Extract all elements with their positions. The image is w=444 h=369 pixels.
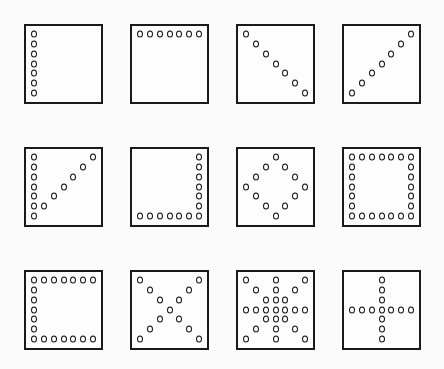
dot-marker [196,277,202,284]
dot-marker [292,306,298,313]
dot-marker [196,31,202,38]
dot-marker [398,40,404,47]
dot-marker [369,154,375,161]
dot-marker [137,31,143,38]
dot-marker [349,90,355,97]
dot-marker [147,213,153,220]
dot-marker [90,336,96,343]
dot-marker [186,31,192,38]
dot-marker [273,326,279,333]
dot-marker [369,70,375,77]
dot-marker [253,193,259,200]
dot-marker [31,90,37,97]
dot-marker [379,213,385,220]
dot-marker [31,70,37,77]
dot-marker [167,306,173,313]
dot-marker [157,213,163,220]
dot-marker [388,50,394,57]
dot-marker [273,60,279,67]
dot-marker [359,154,365,161]
dot-marker [243,336,249,343]
dot-marker [398,306,404,313]
dot-marker [51,336,57,343]
dot-marker [157,31,163,38]
dot-marker [379,154,385,161]
dot-marker [41,203,47,210]
dot-marker [349,183,355,190]
dot-marker [196,213,202,220]
dot-marker [292,326,298,333]
dot-marker [369,306,375,313]
dot-marker [31,316,37,323]
dot-marker [31,336,37,343]
dot-marker [31,183,37,190]
dot-marker [408,306,414,313]
dot-marker [282,316,288,323]
dot-marker [243,277,249,284]
dot-marker [51,277,57,284]
dot-marker [31,306,37,313]
dot-marker [349,213,355,220]
dot-marker [196,193,202,200]
dot-marker [176,296,182,303]
dot-marker [31,326,37,333]
dot-marker [263,203,269,210]
dot-marker [253,286,259,293]
dot-marker [90,154,96,161]
dot-marker [31,163,37,170]
dot-marker [273,296,279,303]
dot-marker [90,277,96,284]
dot-marker [408,203,414,210]
dot-marker [292,193,298,200]
dot-marker [31,193,37,200]
dot-marker [70,336,76,343]
dot-marker [196,163,202,170]
dot-marker [282,70,288,77]
dot-marker [408,154,414,161]
dot-marker [388,213,394,220]
dot-marker [167,31,173,38]
dot-marker [157,296,163,303]
dot-marker [273,336,279,343]
dot-marker [388,154,394,161]
dot-marker [31,31,37,38]
dot-marker [408,183,414,190]
dot-marker [31,277,37,284]
dot-marker [349,193,355,200]
dot-marker [61,277,67,284]
dot-marker [379,326,385,333]
dot-marker [282,296,288,303]
dot-marker [349,203,355,210]
dot-marker [302,336,308,343]
dot-marker [379,316,385,323]
panel-left-column [24,24,103,104]
dot-marker [282,306,288,313]
dot-marker [196,154,202,161]
dot-marker [147,31,153,38]
dot-marker [31,286,37,293]
dot-marker [31,213,37,220]
dot-marker [302,277,308,284]
dot-marker [31,173,37,180]
dot-marker [31,50,37,57]
dot-marker [379,306,385,313]
dot-marker [292,173,298,180]
dot-marker [186,286,192,293]
panel-c-shape [24,270,103,350]
dot-marker [31,203,37,210]
dot-marker [196,203,202,210]
panel-star [236,270,315,350]
dot-marker [263,163,269,170]
dot-marker [61,183,67,190]
dot-marker [379,336,385,343]
dot-marker [282,163,288,170]
dot-marker [31,80,37,87]
panel-left-column-and-anti-diagonal [24,147,103,227]
dot-marker [263,50,269,57]
dot-marker [80,336,86,343]
dot-marker [41,336,47,343]
dot-marker [137,213,143,220]
dot-marker [243,183,249,190]
dot-marker [253,326,259,333]
dot-marker [31,296,37,303]
